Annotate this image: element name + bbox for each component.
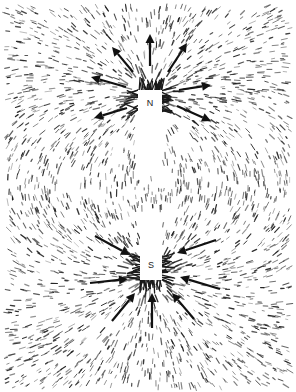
north-pole-label: N <box>147 98 154 108</box>
iron-filings <box>3 4 293 391</box>
iron-filings-field <box>0 0 296 392</box>
magnet-field-illustration: N S <box>0 0 296 392</box>
bar-magnets <box>138 90 162 280</box>
south-magnet-bar <box>140 214 162 280</box>
south-pole-label: S <box>148 260 154 270</box>
